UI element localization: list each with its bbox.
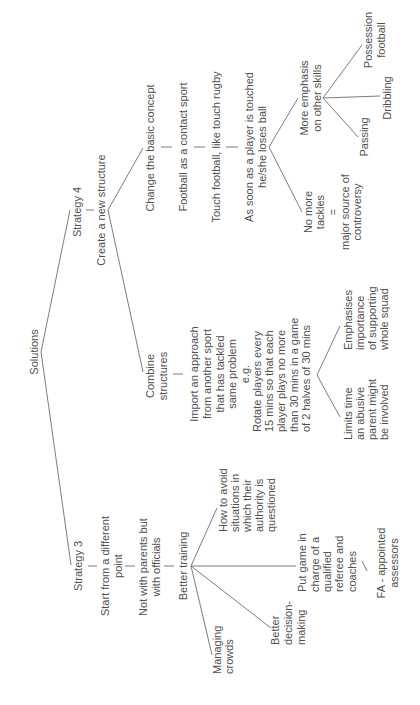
edge-solutions-strategy4	[41, 210, 70, 352]
node-limits-time: Limits time an abusive parent might be i…	[342, 379, 390, 440]
node-line: e.g.	[239, 365, 251, 383]
node-line: of 2 halves of 30 mins	[300, 324, 312, 432]
node-line: Possession	[362, 12, 374, 68]
node-line: authority is	[253, 478, 265, 532]
edge-more-passing	[323, 98, 358, 137]
node-line: that has tackled	[214, 335, 226, 412]
node-line: questioned	[265, 478, 277, 532]
node-football-contact-sport: Football as a contact sport	[177, 82, 189, 211]
node-line: point	[112, 554, 124, 578]
node-line: Managing	[211, 626, 223, 674]
node-dribbling: Dribbling	[381, 76, 393, 119]
node-create-new-structure: Create a new structure	[95, 154, 107, 265]
node-import-approach: Import an approach from another sport th…	[188, 326, 251, 421]
node-line: which their	[241, 479, 253, 533]
node-line: No more	[302, 191, 314, 233]
node-line: than 30 mins in a game	[288, 318, 300, 432]
node-change-basic-concept: Change the basic concept	[144, 84, 156, 211]
node-strategy-3: Strategy 3	[72, 541, 84, 591]
edge-solutions-strategy3	[41, 352, 71, 565]
node-line: structures	[157, 351, 169, 400]
node-line: As soon as a player is touched	[243, 72, 255, 222]
node-line: qualified	[321, 551, 333, 592]
edge-create-change	[108, 148, 143, 210]
node-rotate-players: Rotate players every 15 mins so that eac…	[251, 318, 312, 432]
node-line: Limits time	[342, 387, 354, 440]
node-line: with officials	[150, 537, 162, 598]
node-line: of supporting	[366, 286, 378, 350]
node-combine-structures: Combine structures	[144, 351, 169, 400]
node-line: on other skills	[311, 64, 323, 132]
node-emphasises: Emphasises importance of supporting whol…	[342, 286, 390, 351]
node-line: crowds	[223, 639, 235, 674]
node-start-different-point: Start from a different point	[99, 516, 124, 616]
node-line: situations in	[229, 474, 241, 532]
node-no-more-tackles: No more tackles = major source of contro…	[302, 173, 363, 250]
node-line: same problem	[226, 339, 238, 409]
node-better-training: Better training	[177, 532, 189, 600]
node-possession-football: Possession football	[362, 12, 387, 68]
node-line: Rotate players every	[251, 331, 263, 432]
node-line: tackles	[314, 194, 326, 229]
node-line: Better	[269, 615, 281, 645]
node-better-decision-making: Better decision- making	[269, 601, 307, 645]
edge-rotate-emphasises	[317, 326, 340, 375]
node-as-soon-as-touched: As soon as a player is touched he/she lo…	[243, 72, 268, 222]
edge-create-combine	[108, 210, 143, 372]
node-not-with-parents: Not with parents but with officials	[137, 518, 162, 616]
node-touch-football: Touch football, like touch rugby	[210, 71, 222, 223]
node-line: player plays no more	[275, 330, 287, 432]
node-line: whole squad	[378, 288, 390, 351]
edge-more-dribbling	[323, 96, 380, 98]
node-line: More emphasis	[298, 60, 310, 136]
node-line: he/she loses ball	[256, 106, 268, 188]
edge-putgame-fa	[362, 561, 367, 571]
node-line: 15 mins so that each	[263, 330, 275, 432]
node-line: from another sport	[201, 329, 213, 419]
node-line: be involved	[378, 384, 390, 440]
node-more-emphasis: More emphasis on other skills	[298, 60, 323, 136]
node-line: parent might	[366, 379, 378, 440]
node-fa-appointed-assessors: FA - appointed assessors	[375, 528, 400, 599]
node-how-to-avoid: How to avoid situations in which their a…	[217, 468, 277, 533]
node-line: charge of a	[309, 536, 321, 592]
node-line: =	[327, 209, 339, 215]
edge-more-possession	[323, 45, 362, 98]
edge-assoon-notackles	[269, 147, 302, 212]
node-line: How to avoid	[217, 468, 229, 532]
node-line: assessors	[388, 538, 400, 588]
edge-rotate-limits	[317, 375, 340, 417]
node-line: Start from a different	[99, 516, 111, 616]
node-line: Put game in	[296, 533, 308, 592]
node-passing: Passing	[358, 117, 370, 156]
nodes: Solutions Strategy 4 Create a new struct…	[28, 12, 400, 674]
node-strategy-4: Strategy 4	[71, 187, 83, 237]
solutions-mind-map: Solutions Strategy 4 Create a new struct…	[0, 0, 420, 705]
node-solutions: Solutions	[28, 329, 40, 375]
node-line: an abusive	[354, 387, 366, 440]
node-put-game-in-charge: Put game in charge of a qualified refere…	[296, 533, 358, 592]
node-line: major source of	[339, 173, 351, 250]
node-line: FA - appointed	[375, 528, 387, 599]
node-line: controversy	[351, 183, 363, 240]
node-line: referee and	[333, 536, 345, 592]
node-line: Combine	[144, 354, 156, 398]
node-managing-crowds: Managing crowds	[211, 626, 235, 674]
node-line: Import an approach	[188, 326, 200, 421]
node-line: coaches	[346, 551, 358, 592]
node-line: importance	[354, 296, 366, 350]
node-line: Not with parents but	[137, 518, 149, 616]
edge-assoon-more	[269, 98, 298, 147]
node-line: football	[375, 22, 387, 57]
node-line: decision-	[282, 601, 294, 645]
node-line: making	[295, 610, 307, 645]
edge-training-avoid	[191, 508, 217, 566]
node-line: Emphasises	[342, 290, 354, 350]
